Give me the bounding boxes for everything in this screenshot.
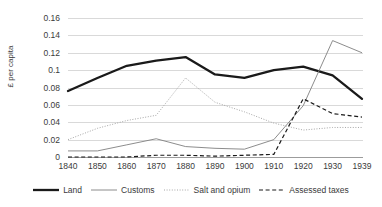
y-axis-title: £ per capita xyxy=(6,37,15,97)
y-axis-tick-label: 0.06 xyxy=(24,101,60,110)
legend-item-assessed-taxes[interactable]: Assessed taxes xyxy=(259,186,349,195)
y-axis-tick-label: 0.1 xyxy=(24,66,60,75)
gridline xyxy=(68,157,363,158)
y-axis-tick-label: 0.12 xyxy=(24,49,60,58)
series-container xyxy=(68,18,363,157)
legend-label: Land xyxy=(63,186,82,195)
legend-swatch-icon xyxy=(259,186,285,194)
line-chart: £ per capita 00.020.040.060.080.10.120.1… xyxy=(0,0,382,207)
x-axis-tick-label: 1939 xyxy=(345,162,379,171)
legend-item-land[interactable]: Land xyxy=(33,186,82,195)
legend-item-customs[interactable]: Customs xyxy=(91,186,155,195)
series-line-land xyxy=(68,57,362,99)
y-axis-tick-label: 0.08 xyxy=(24,84,60,93)
y-axis-tick-label: 0.16 xyxy=(24,14,60,23)
legend-label: Customs xyxy=(121,186,155,195)
y-axis-tick-label: 0.02 xyxy=(24,136,60,145)
y-axis-tick-label: 0 xyxy=(24,153,60,162)
legend-swatch-icon xyxy=(33,186,59,194)
series-line-customs xyxy=(68,41,362,151)
plot-area xyxy=(68,18,363,157)
y-axis-tick-label: 0.04 xyxy=(24,118,60,127)
legend-label: Salt and opium xyxy=(194,186,251,195)
y-axis-tick-label: 0.14 xyxy=(24,31,60,40)
legend-swatch-icon xyxy=(91,186,117,194)
legend-item-salt-and-opium[interactable]: Salt and opium xyxy=(164,186,251,195)
legend-label: Assessed taxes xyxy=(289,186,349,195)
chart-legend: LandCustomsSalt and opiumAssessed taxes xyxy=(0,186,382,195)
legend-swatch-icon xyxy=(164,186,190,194)
series-line-salt-and-opium xyxy=(68,78,362,140)
